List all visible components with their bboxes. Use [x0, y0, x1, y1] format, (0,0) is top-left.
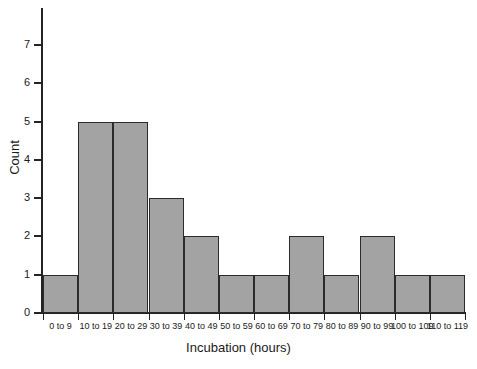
histogram-bar: [324, 275, 359, 313]
x-axis-tick: [43, 313, 44, 320]
histogram-bar: [360, 236, 395, 313]
x-axis-tick: [149, 313, 150, 320]
y-axis-tick: [34, 274, 42, 276]
y-axis-tick: [34, 44, 42, 46]
y-axis-tick: [34, 312, 42, 314]
y-axis-tick-label: 7: [10, 39, 30, 50]
histogram-bar: [430, 275, 465, 313]
x-axis-tick: [289, 313, 290, 320]
x-axis-tick: [324, 313, 325, 320]
histogram-bar: [254, 275, 289, 313]
y-axis-tick: [34, 121, 42, 123]
y-axis-tick: [34, 197, 42, 199]
y-axis-title: Count: [7, 108, 22, 208]
histogram-bar: [395, 275, 430, 313]
y-axis-tick: [34, 235, 42, 237]
x-axis-title: Incubation (hours): [0, 340, 477, 355]
histogram-chart: 01234567 0 to 910 to 1920 to 2930 to 394…: [0, 0, 477, 369]
y-axis-tick-label: 0: [10, 307, 30, 318]
y-axis-tick: [34, 82, 42, 84]
y-axis-tick-label: 6: [10, 77, 30, 88]
x-axis-tick: [360, 313, 361, 320]
x-axis-tick: [395, 313, 396, 320]
histogram-bar: [219, 275, 254, 313]
y-axis-tick: [34, 159, 42, 161]
x-axis-tick: [465, 313, 466, 320]
x-axis-tick: [113, 313, 114, 320]
x-axis-tick: [184, 313, 185, 320]
histogram-bar: [78, 122, 113, 314]
histogram-bar: [43, 275, 78, 313]
x-axis-tick: [219, 313, 220, 320]
histogram-bar: [289, 236, 324, 313]
histogram-bar: [149, 198, 184, 313]
x-axis-tick: [78, 313, 79, 320]
x-axis-tick: [254, 313, 255, 320]
histogram-bar: [113, 122, 148, 314]
histogram-bar: [184, 236, 219, 313]
x-axis-tick-label: 110 to 119: [424, 321, 471, 331]
y-axis-tick-label: 1: [10, 269, 30, 280]
plot-area: [43, 8, 465, 313]
x-axis-tick: [430, 313, 431, 320]
y-axis-tick-label: 2: [10, 230, 30, 241]
